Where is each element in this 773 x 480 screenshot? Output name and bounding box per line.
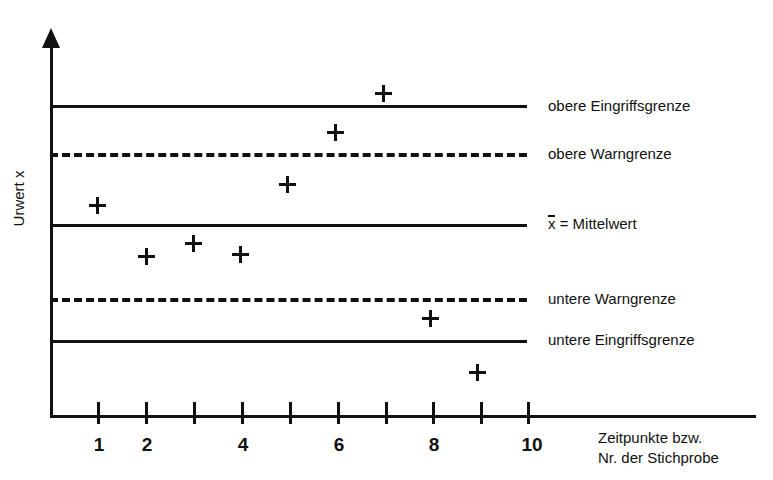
lower-warning-limit-line <box>50 298 527 302</box>
x-bar-symbol: x <box>548 215 556 231</box>
x-tick-1 <box>97 402 100 424</box>
x-axis-title-line-1: Zeitpunkte bzw. <box>598 428 719 448</box>
x-axis-line <box>50 415 756 418</box>
x-tick-2 <box>145 402 148 424</box>
control-chart: Urwert x 1 2 4 6 8 10 obere Eingriffsgre… <box>0 0 773 480</box>
upper-warning-limit-line <box>50 153 527 157</box>
x-tick-10 <box>527 402 530 424</box>
x-axis-title: Zeitpunkte bzw. Nr. der Stichprobe <box>598 428 719 469</box>
x-tick-label-2: 2 <box>127 434 167 456</box>
lower-action-limit-label: untere Eingriffsgrenze <box>548 332 694 347</box>
lower-action-limit-line <box>50 340 527 343</box>
x-tick-label-6: 6 <box>319 434 359 456</box>
x-tick-9 <box>480 402 483 424</box>
data-point <box>422 310 439 327</box>
data-point <box>185 235 202 252</box>
upper-action-limit-label: obere Eingriffsgrenze <box>548 98 690 113</box>
x-tick-label-8: 8 <box>414 434 454 456</box>
x-tick-7 <box>385 402 388 424</box>
data-point <box>327 124 344 141</box>
mean-line-label: x = Mittelwert <box>548 215 637 231</box>
x-tick-5 <box>289 402 292 424</box>
mean-line <box>50 224 527 227</box>
data-point <box>375 85 392 102</box>
data-point <box>138 248 155 265</box>
lower-warning-limit-label: untere Warngrenze <box>548 291 676 306</box>
data-point <box>89 197 106 214</box>
y-axis-arrow-icon <box>42 28 60 48</box>
x-tick-label-10: 10 <box>512 434 552 456</box>
y-axis-title: Urwert x <box>10 144 27 254</box>
x-tick-6 <box>337 402 340 424</box>
x-tick-3 <box>193 402 196 424</box>
upper-warning-limit-label: obere Warngrenze <box>548 146 672 161</box>
x-tick-8 <box>432 402 435 424</box>
data-point <box>469 364 486 381</box>
x-axis-title-line-2: Nr. der Stichprobe <box>598 448 719 468</box>
x-tick-4 <box>241 402 244 424</box>
x-tick-label-1: 1 <box>79 434 119 456</box>
x-tick-label-4: 4 <box>223 434 263 456</box>
y-axis-line <box>50 44 53 417</box>
data-point <box>232 246 249 263</box>
upper-action-limit-line <box>50 105 527 108</box>
mean-line-label-text: = Mittelwert <box>560 215 637 232</box>
data-point <box>279 176 296 193</box>
